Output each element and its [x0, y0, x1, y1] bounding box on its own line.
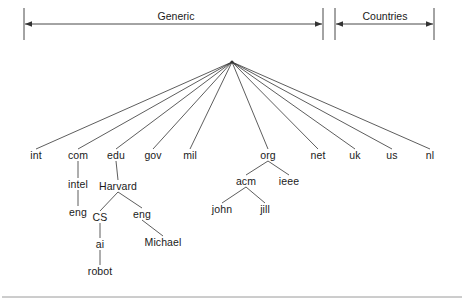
bracket-arrow-left-1 — [336, 21, 343, 27]
tree-node-org: org — [260, 150, 275, 161]
tree-node-mil: mil — [183, 150, 197, 161]
tree-node-int: int — [30, 150, 41, 161]
root-node-dot — [230, 60, 233, 63]
tree-node-eng2: eng — [133, 209, 151, 220]
bracket-label-generic: Generic — [155, 11, 198, 22]
tree-node-robot: robot — [88, 266, 112, 277]
tree-node-Michael: Michael — [145, 237, 182, 248]
dns-hierarchy-diagram: intcomedugovmilorgnetukusnlintelengHarva… — [0, 0, 464, 308]
tree-node-com: com — [68, 150, 88, 161]
edge-layer — [36, 60, 430, 265]
bracket-label-countries: Countries — [360, 11, 411, 22]
tree-edge-eng2-to-Michael — [142, 220, 163, 236]
tree-edge-root-to-uk — [232, 62, 355, 149]
tree-edge-org-to-acm — [246, 161, 268, 175]
tree-node-jill: jill — [260, 204, 270, 215]
tree-edge-org-to-ieee — [268, 161, 289, 175]
tree-node-us: us — [386, 150, 397, 161]
tree-node-ieee: ieee — [279, 176, 299, 187]
tree-edge-root-to-nl — [232, 62, 430, 149]
tree-edge-Harvard-to-CS — [100, 192, 118, 211]
tree-node-edu: edu — [107, 150, 125, 161]
tree-edge-root-to-us — [232, 62, 392, 149]
tree-edge-acm-to-john — [222, 187, 246, 203]
tree-node-acm: acm — [236, 176, 256, 187]
tree-node-ai: ai — [96, 239, 104, 250]
tree-edge-root-to-gov — [153, 62, 232, 149]
tree-node-gov: gov — [144, 150, 161, 161]
bracket-arrow-right-1 — [426, 21, 433, 27]
tree-node-john: john — [212, 204, 232, 215]
tree-node-eng1: eng — [69, 207, 87, 218]
bracket-arrow-left-0 — [25, 21, 32, 27]
tree-node-Harvard: Harvard — [99, 181, 137, 192]
tree-edge-root-to-mil — [190, 62, 232, 149]
tree-node-nl: nl — [426, 150, 434, 161]
bracket-arrow-right-0 — [315, 21, 322, 27]
tree-edge-root-to-com — [78, 62, 232, 149]
tree-edge-Harvard-to-eng2 — [118, 192, 142, 208]
tree-node-uk: uk — [349, 150, 360, 161]
tree-node-net: net — [311, 150, 326, 161]
tree-edge-edu-to-Harvard — [116, 161, 118, 180]
tree-edge-acm-to-jill — [246, 187, 265, 203]
tree-node-CS: CS — [93, 212, 108, 223]
tree-node-intel: intel — [68, 179, 88, 190]
tree-edge-root-to-net — [232, 62, 318, 149]
